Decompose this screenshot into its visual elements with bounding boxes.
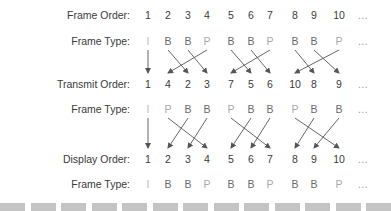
footer-bar-segment [305, 203, 330, 211]
arrow-diagonal-icon [295, 118, 339, 148]
arrow-diagonal-icon [231, 118, 251, 148]
arrow-diagonal-icon [188, 50, 207, 73]
footer-bar-segment [31, 203, 56, 211]
arrow-diagonal-icon [188, 118, 207, 148]
footer-bar-segment [183, 203, 208, 211]
arrow-diagonal-icon [295, 50, 339, 73]
footer-bar-segment [244, 203, 269, 211]
footer-bar-segment [61, 203, 86, 211]
arrow-diagonal-icon [231, 50, 270, 73]
arrow-diagonal-icon [231, 50, 251, 73]
arrow-diagonal-icon [295, 50, 314, 73]
arrow-diagonal-icon [168, 118, 207, 148]
footer-bar-segment [92, 203, 117, 211]
arrow-diagonal-icon [168, 50, 207, 73]
arrow-diagonal-icon [251, 118, 270, 148]
footer-bar-segment [0, 203, 25, 211]
footer-bar-strip [0, 203, 381, 211]
arrow-diagonal-icon [251, 50, 270, 73]
footer-bar-segment [275, 203, 300, 211]
footer-bar-segment [214, 203, 239, 211]
footer-bar-segment [153, 203, 178, 211]
arrow-diagonal-icon [168, 50, 188, 73]
footer-bar-segment [336, 203, 361, 211]
footer-bar-segment [366, 203, 391, 211]
arrow-diagonal-icon [231, 118, 270, 148]
footer-bar-segment [122, 203, 147, 211]
arrow-diagonal-icon [295, 118, 314, 148]
arrow-diagonal-icon [168, 118, 188, 148]
